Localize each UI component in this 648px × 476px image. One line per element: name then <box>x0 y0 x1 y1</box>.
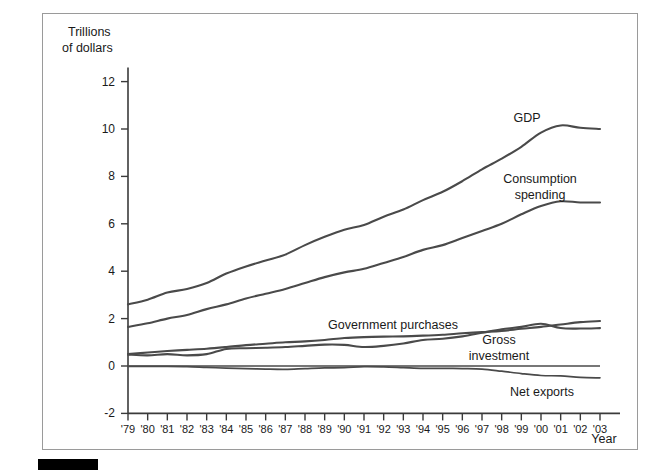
x-tick-label: '01 <box>553 423 567 435</box>
figure-container: -2024681012'79'80'81'82'83'84'85'86'87'8… <box>0 0 648 476</box>
x-tick-label: '89 <box>317 423 331 435</box>
x-tick-label: '02 <box>573 423 587 435</box>
y-tick-label: 6 <box>108 217 115 231</box>
series-path-gdp <box>128 125 600 304</box>
x-tick-label: '98 <box>494 423 508 435</box>
y-tick-label: 0 <box>108 359 115 373</box>
y-tick-label: 4 <box>108 264 115 278</box>
x-tick-label: '79 <box>121 423 135 435</box>
x-tick-label: '96 <box>455 423 469 435</box>
x-tick-label: '95 <box>435 423 449 435</box>
x-tick-label: '97 <box>475 423 489 435</box>
y-tick-label: -2 <box>104 406 115 420</box>
x-tick-label: '81 <box>160 423 174 435</box>
x-tick-label: '83 <box>199 423 213 435</box>
series-label-gdp: GDP <box>513 111 540 125</box>
x-tick-label: '93 <box>396 423 410 435</box>
x-tick-label: '99 <box>514 423 528 435</box>
x-tick-label: '86 <box>258 423 272 435</box>
y-axis-title-line2: of dollars <box>62 41 113 55</box>
x-tick-label: '82 <box>180 423 194 435</box>
x-tick-label: '84 <box>219 423 233 435</box>
series-label-consumption-line2: spending <box>515 188 566 202</box>
y-tick-label: 12 <box>102 75 116 89</box>
series-label-consumption-line1: Consumption <box>503 172 577 186</box>
series-label-net-exports: Net exports <box>510 385 574 399</box>
x-axis-title: Year <box>591 432 616 446</box>
x-tick-label: '00 <box>534 423 548 435</box>
x-tick-label: '91 <box>357 423 371 435</box>
series-label-investment-line2: investment <box>469 349 530 363</box>
x-tick-label: '90 <box>337 423 351 435</box>
x-tick-label: '88 <box>298 423 312 435</box>
y-tick-label: 10 <box>102 122 116 136</box>
series-label-government: Government purchases <box>328 318 458 332</box>
y-tick-label: 2 <box>108 312 115 326</box>
x-tick-label: '94 <box>416 423 430 435</box>
axes: -2024681012'79'80'81'82'83'84'85'86'87'8… <box>102 68 620 436</box>
x-tick-label: '80 <box>140 423 154 435</box>
y-tick-label: 8 <box>108 169 115 183</box>
y-axis-title-line1: Trillions <box>68 25 111 39</box>
x-tick-label: '87 <box>278 423 292 435</box>
series-lines <box>128 125 600 378</box>
line-chart: -2024681012'79'80'81'82'83'84'85'86'87'8… <box>0 0 648 476</box>
x-tick-label: '85 <box>239 423 253 435</box>
series-path-net-exports <box>128 366 600 377</box>
chart-text-labels: Trillions of dollars Year GDP Consumptio… <box>62 25 617 446</box>
series-label-investment-line1: Gross <box>482 333 515 347</box>
series-path-consumption-spending <box>128 201 600 327</box>
x-tick-label: '92 <box>376 423 390 435</box>
